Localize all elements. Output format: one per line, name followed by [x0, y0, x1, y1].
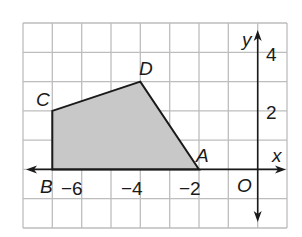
vertex-label-b: B	[40, 176, 53, 197]
y-axis-label: y	[240, 29, 253, 50]
y-tick-label-2: 2	[266, 102, 277, 123]
vertex-label-a: A	[195, 145, 209, 166]
x-axis-label: x	[271, 145, 283, 166]
quadrilateral-ABCD	[52, 82, 199, 170]
x-tick-label-neg4: −4	[121, 178, 143, 199]
x-tick-label-neg6: −6	[61, 178, 83, 199]
coordinate-plane: A B C D x y O −6 −4 −2 2 4	[0, 0, 302, 237]
y-axis	[254, 30, 262, 222]
vertex-label-c: C	[36, 89, 50, 110]
x-tick-label-neg2: −2	[179, 178, 201, 199]
origin-label: O	[237, 175, 252, 196]
y-tick-label-4: 4	[266, 44, 277, 65]
vertex-label-d: D	[139, 58, 153, 79]
